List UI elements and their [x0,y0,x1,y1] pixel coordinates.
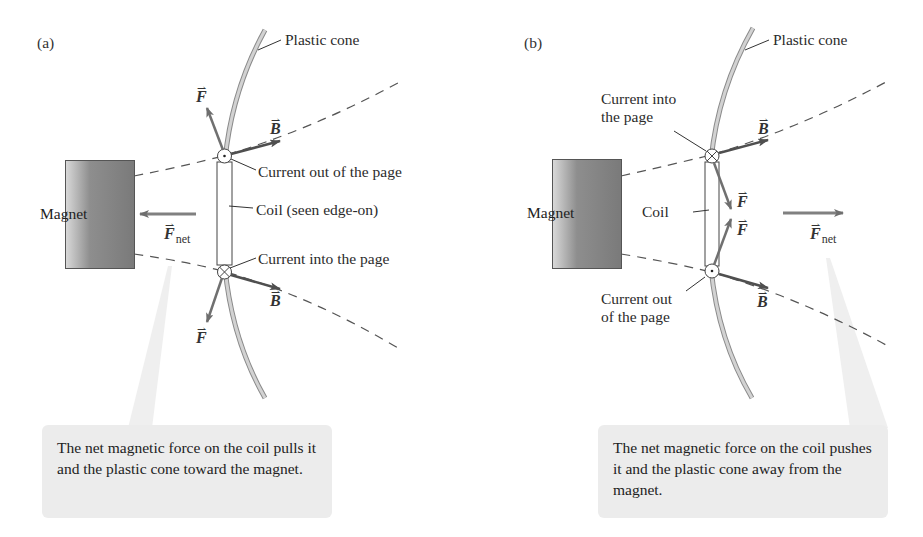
coil-b [705,162,719,266]
coil-b-label: Coil [642,203,669,221]
plastic-cone-a-label: Plastic cone [285,31,359,49]
magnet-a-label: Magnet [40,205,87,223]
force-upper-b-symbol: ⇀F [737,194,748,210]
field-top-b-arrow [719,140,768,153]
callout-a-tail [128,266,172,428]
force-bottom-a-arrow [207,278,222,322]
field-top-a-arrow [231,141,280,154]
callout-a: The net magnetic force on the coil pulls… [42,425,332,518]
force-lower-b-symbol: ⇀F [737,222,748,238]
current-out-a-label: Current out of the page [258,163,402,181]
field-bottom-b-symbol: ⇀B [757,294,768,310]
coil-a [217,162,232,265]
panel-a-tag: (a) [37,34,54,52]
callout-b-tail [826,258,888,428]
force-bottom-a-symbol: ⇀F [196,330,207,346]
current-in-b-label-line2: the page [601,108,653,126]
field-top-a-symbol: ⇀B [270,121,281,137]
field-top-b-symbol: ⇀B [758,121,769,137]
force-top-a-symbol: ⇀F [196,89,207,105]
force-top-a-arrow [207,108,223,150]
current-out-b-label-line1: Current out [601,290,672,308]
plastic-cone-b-label: Plastic cone [773,31,847,49]
field-bottom-a-symbol: ⇀B [270,293,281,309]
field-line-a-bottom [134,254,398,348]
callout-b: The net magnetic force on the coil pushe… [598,425,888,518]
coil-a-label: Coil (seen edge-on) [256,201,378,219]
current-in-a-label: Current into the page [258,250,389,268]
net-force-b-symbol: ⇀Fnet [810,226,836,247]
panel-b-tag: (b) [524,34,542,52]
current-in-b-label-line1: Current into [601,90,676,108]
current-out-b-label-line2: of the page [601,308,670,326]
net-force-a-symbol: ⇀Fnet [164,226,190,247]
magnet-b-label: Magnet [527,204,574,222]
